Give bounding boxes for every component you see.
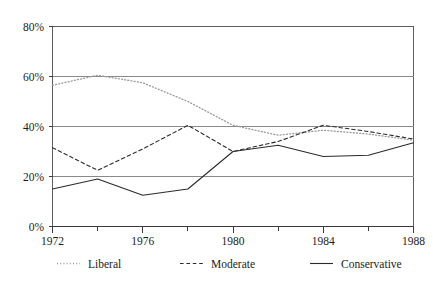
xtick-label-1984: 1984	[312, 235, 335, 247]
x-axis: 1972 1976 1980 1984 1988	[41, 235, 425, 247]
ytick-label-0: 0%	[29, 221, 45, 233]
xtick-label-1976: 1976	[131, 235, 154, 247]
legend-label-conservative: Conservative	[341, 258, 402, 270]
y-tick-marks	[49, 27, 53, 227]
legend-label-moderate: Moderate	[211, 258, 255, 270]
y-axis: 80% 60% 40% 20% 0%	[23, 21, 45, 233]
ytick-label-80: 80%	[23, 21, 45, 33]
x-tick-marks	[53, 227, 414, 233]
legend-item-moderate: Moderate	[180, 258, 255, 270]
ytick-label-60: 60%	[23, 71, 45, 83]
chart-legend: Liberal Moderate Conservative	[57, 258, 402, 270]
line-chart: 80% 60% 40% 20% 0%	[0, 0, 433, 281]
legend-label-liberal: Liberal	[88, 258, 121, 270]
data-series-group	[53, 75, 414, 195]
legend-item-liberal: Liberal	[57, 258, 121, 270]
legend-item-conservative: Conservative	[310, 258, 402, 270]
ytick-label-20: 20%	[23, 171, 45, 183]
xtick-label-1988: 1988	[402, 235, 425, 247]
xtick-label-1980: 1980	[222, 235, 245, 247]
gridlines-horizontal	[53, 77, 414, 177]
series-line-conservative	[53, 143, 414, 196]
ytick-label-40: 40%	[23, 121, 45, 133]
chart-canvas: 80% 60% 40% 20% 0%	[0, 0, 433, 281]
series-line-moderate	[53, 125, 414, 170]
xtick-label-1972: 1972	[41, 235, 64, 247]
